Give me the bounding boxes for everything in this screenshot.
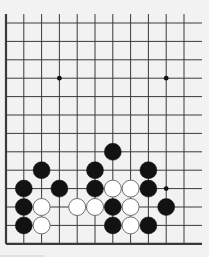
star-point (57, 76, 62, 81)
white-stone (69, 199, 86, 216)
black-stone (140, 217, 157, 234)
white-stone (122, 180, 139, 197)
go-board-diagram (0, 0, 209, 257)
white-stone (87, 199, 104, 216)
white-stone (33, 199, 50, 216)
black-stone (87, 162, 104, 179)
black-stone (140, 180, 157, 197)
black-stone (140, 162, 157, 179)
black-stone (87, 180, 104, 197)
black-stone (104, 143, 121, 160)
white-stone (33, 217, 50, 234)
black-stone (158, 199, 175, 216)
white-stone (104, 180, 121, 197)
white-stone (122, 199, 139, 216)
black-stone (15, 199, 32, 216)
black-stone (15, 180, 32, 197)
black-stone (51, 180, 68, 197)
black-stone (15, 217, 32, 234)
black-stone (104, 217, 121, 234)
black-stone (104, 199, 121, 216)
black-stone (33, 162, 50, 179)
star-point (164, 186, 169, 191)
star-point (164, 76, 169, 81)
white-stone (122, 217, 139, 234)
